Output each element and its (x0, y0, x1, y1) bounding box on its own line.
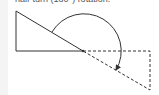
rotated-triangle (83, 51, 150, 90)
rotation-arrow-icon (52, 14, 121, 70)
rotation-diagram (0, 0, 159, 95)
original-triangle (16, 11, 83, 51)
pivot-point (82, 50, 84, 52)
